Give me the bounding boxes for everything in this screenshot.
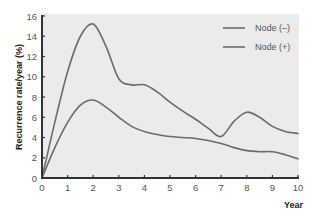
x-tick-label: 8 — [244, 182, 249, 193]
legend-label-0: Node (–) — [255, 23, 290, 33]
y-tick-label: 4 — [32, 132, 37, 143]
y-tick-label: 14 — [26, 31, 37, 42]
x-tick-label: 6 — [193, 182, 198, 193]
x-tick-label: 4 — [142, 182, 147, 193]
y-tick-label: 10 — [26, 71, 37, 82]
x-tick-label: 1 — [65, 182, 70, 193]
x-tick-label: 0 — [39, 182, 44, 193]
legend-label-1: Node (+) — [255, 42, 290, 52]
x-tick-label: 5 — [167, 182, 172, 193]
y-tick-label: 12 — [26, 51, 37, 62]
x-tick-label: 3 — [116, 182, 121, 193]
plot-background — [42, 14, 299, 178]
y-tick-label: 8 — [32, 92, 37, 103]
x-tick-label: 7 — [219, 182, 224, 193]
x-tick-label: 9 — [270, 182, 275, 193]
line-chart: 0246810121416012345678910 Node (–)Node (… — [0, 0, 313, 217]
y-axis-title: Recurrence rate/year (%) — [14, 44, 24, 150]
y-tick-label: 6 — [32, 112, 37, 123]
x-tick-label: 2 — [91, 182, 96, 193]
y-tick-label: 0 — [32, 173, 37, 184]
x-tick-label: 10 — [293, 182, 304, 193]
y-tick-label: 2 — [32, 152, 37, 163]
x-axis-title: Year — [284, 200, 304, 210]
y-tick-label: 16 — [26, 11, 37, 22]
